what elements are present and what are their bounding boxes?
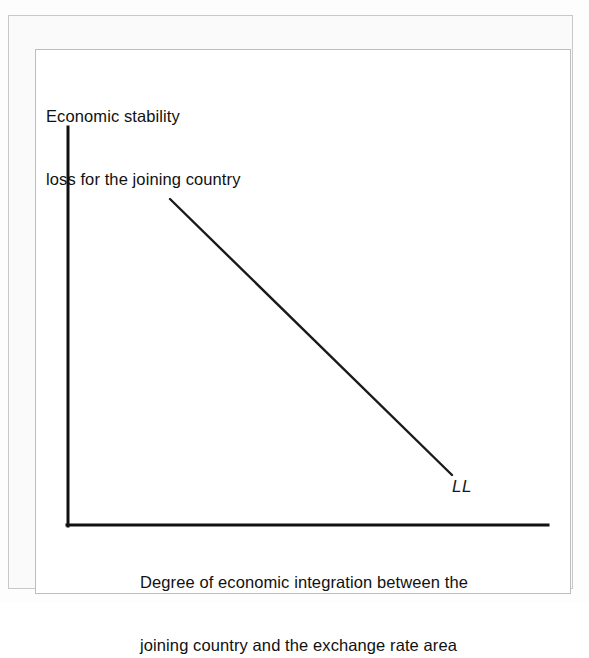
- x-axis-label-line-2: joining country and the exchange rate ar…: [140, 635, 468, 656]
- ll-curve: [170, 199, 452, 475]
- ll-curve-label: LL: [452, 477, 472, 497]
- outer-scan-frame: Economic stability loss for the joining …: [8, 15, 573, 589]
- x-axis-label: Degree of economic integration between t…: [140, 530, 468, 658]
- figure-box: Economic stability loss for the joining …: [35, 49, 571, 594]
- x-axis-label-line-1: Degree of economic integration between t…: [140, 572, 468, 593]
- chart-canvas: [36, 50, 572, 595]
- plot-area: Economic stability loss for the joining …: [36, 50, 572, 595]
